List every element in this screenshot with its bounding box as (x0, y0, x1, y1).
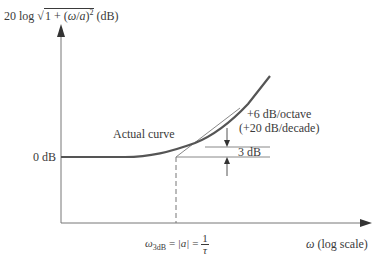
bode-plot-figure (0, 0, 377, 258)
arrow-up-icon (224, 157, 230, 164)
slope-label-octave: +6 dB/octave (247, 108, 311, 120)
corner-frequency-label: ω3dB = |a| = 1τ (145, 233, 209, 256)
omega: ω (306, 237, 314, 251)
subscript-3db: 3dB (153, 243, 166, 252)
equals-1: = (169, 237, 175, 249)
y-axis-label: 20 log √1 + (ω/a)2 (dB) (4, 9, 119, 22)
slope-label-decade: (+20 dB/decade) (239, 122, 319, 134)
y-label-radicand: 1 + (ω/a)2 (44, 8, 94, 23)
x-axis (61, 219, 372, 227)
omega: ω (145, 237, 153, 249)
abs-a: |a| (178, 237, 190, 249)
x-axis-label: ω (log scale) (306, 238, 368, 250)
asymptote-line (176, 108, 240, 157)
y-axis-arrow-icon (57, 24, 65, 37)
fraction: 1τ (201, 233, 209, 256)
three-db-arrows (224, 128, 230, 176)
omega: ω (68, 9, 76, 23)
sqrt-symbol: √ (37, 9, 44, 23)
equals-2: = (192, 237, 198, 249)
y-axis (57, 24, 65, 223)
zero-db-label: 0 dB (33, 151, 56, 163)
three-db-label: 3 dB (238, 146, 261, 158)
x-axis-arrow-icon (360, 219, 372, 227)
radicand-start: 1 + ( (45, 9, 68, 23)
y-label-prefix: 20 log (4, 9, 34, 23)
x-label-text: (log scale) (317, 237, 367, 251)
exponent: 2 (90, 8, 94, 17)
frac-denominator: τ (201, 245, 209, 256)
arrow-down-icon (224, 140, 230, 147)
actual-curve-label: Actual curve (113, 128, 175, 140)
y-label-unit: (dB) (97, 9, 119, 23)
